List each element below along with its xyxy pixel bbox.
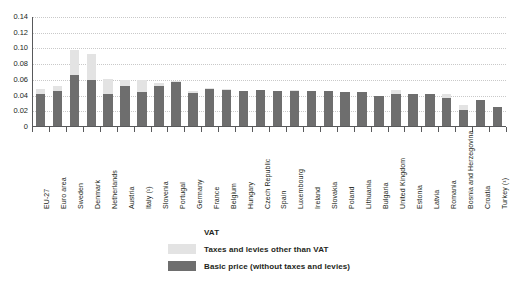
bar-belgium[interactable] (222, 89, 231, 127)
chart-container: 00.020.040.060.080.100.120.14 EU-27Euro … (0, 0, 519, 282)
x-axis-tick (134, 127, 135, 132)
bar-segment-basic-price (256, 90, 265, 127)
bar-spain[interactable] (273, 91, 282, 127)
y-axis-tick-labels: 00.020.040.060.080.100.120.14 (0, 0, 30, 132)
bar-denmark[interactable] (87, 54, 96, 127)
x-axis-tick (455, 127, 456, 132)
x-axis-tick (32, 127, 33, 132)
x-axis-tick-label: Slovenia (162, 181, 170, 209)
y-axis-tick-label: 0.02 (13, 107, 28, 115)
bar-segment-basic-price (53, 91, 62, 127)
chart-legend: VAT Taxes and levies other than VAT Basi… (168, 224, 488, 275)
x-axis-tick-label: Czech Republic (264, 159, 272, 209)
y-axis-tick-label: 0.06 (13, 76, 28, 84)
bar-germany[interactable] (188, 91, 197, 127)
bar-segment-other-taxes (87, 54, 96, 80)
bar-austria[interactable] (120, 80, 129, 127)
bar-sweden[interactable] (70, 50, 79, 127)
x-axis-tick-label: Turkey (¹) (501, 178, 509, 209)
x-axis-tick (66, 127, 67, 132)
x-axis-tick-label: Spain (280, 191, 288, 209)
x-axis-tick (388, 127, 389, 132)
bar-hungary[interactable] (239, 91, 248, 127)
bar-bosnia-and-herzegovina[interactable] (459, 105, 468, 127)
bar-segment-basic-price (391, 94, 400, 127)
bar-luxembourg[interactable] (290, 90, 299, 127)
bar-segment-basic-price (205, 89, 214, 128)
x-axis-tick (371, 127, 372, 132)
x-axis-tick (337, 127, 338, 132)
bar-slovenia[interactable] (154, 83, 163, 127)
x-axis-tick-label: Latvia (433, 190, 441, 209)
x-axis-tick (354, 127, 355, 132)
x-axis-tick (303, 127, 304, 132)
bar-segment-basic-price (290, 91, 299, 127)
bar-romania[interactable] (442, 94, 451, 127)
legend-label-other-taxes: Taxes and levies other than VAT (204, 245, 328, 254)
x-axis-tick-label: Romania (450, 180, 458, 209)
x-axis-tick-label: Austria (128, 187, 136, 210)
bar-segment-basic-price (425, 94, 434, 127)
x-axis-tick (184, 127, 185, 132)
bar-slovakia[interactable] (324, 91, 333, 127)
bar-segment-other-taxes (70, 50, 79, 75)
y-axis-tick-label: 0.12 (13, 29, 28, 37)
x-axis-tick (489, 127, 490, 132)
bar-segment-basic-price (222, 90, 231, 127)
bar-croatia[interactable] (476, 100, 485, 128)
x-axis-tick-label: Bosnia and Herzegovina (467, 131, 475, 209)
bar-segment-basic-price (459, 110, 468, 127)
y-axis-tick-label: 0.10 (13, 44, 28, 52)
bar-turkey[interactable] (493, 107, 502, 127)
bar-segment-basic-price (239, 91, 248, 127)
bar-eu-27[interactable] (36, 89, 45, 127)
bar-segment-other-taxes (103, 79, 112, 94)
bar-segment-basic-price (273, 91, 282, 127)
legend-swatch-basic-price (168, 261, 196, 271)
y-axis-line (32, 17, 33, 127)
x-axis-tick (117, 127, 118, 132)
bar-netherlands[interactable] (103, 79, 112, 127)
bar-estonia[interactable] (408, 94, 417, 127)
x-axis-tick (201, 127, 202, 132)
x-axis-tick (404, 127, 405, 132)
bar-bulgaria[interactable] (374, 96, 383, 127)
bar-italy[interactable] (137, 80, 146, 127)
y-axis-tick-label: 0 (24, 123, 28, 131)
bar-poland[interactable] (340, 92, 349, 127)
x-axis-tick-label: Germany (196, 180, 204, 210)
bar-ireland[interactable] (307, 91, 316, 127)
bar-segment-basic-price (408, 94, 417, 127)
bar-france[interactable] (205, 88, 214, 127)
bar-segment-basic-price (374, 96, 383, 127)
bar-segment-basic-price (171, 82, 180, 127)
y-axis-tick-label: 0.14 (13, 13, 28, 21)
x-axis-tick (167, 127, 168, 132)
bar-portugal[interactable] (171, 81, 180, 127)
x-axis-tick (218, 127, 219, 132)
y-axis-tick-label: 0.08 (13, 60, 28, 68)
bar-czech-republic[interactable] (256, 90, 265, 127)
bar-euro-area[interactable] (53, 86, 62, 127)
bar-latvia[interactable] (425, 94, 434, 127)
bar-segment-basic-price (188, 93, 197, 127)
x-axis-tick (49, 127, 50, 132)
bar-segment-basic-price (87, 80, 96, 127)
x-axis-tick-label: Ireland (314, 187, 322, 209)
bar-segment-basic-price (340, 92, 349, 127)
x-axis-tick (151, 127, 152, 132)
x-axis-tick-label: Lithuania (365, 180, 373, 209)
bar-lithuania[interactable] (357, 92, 366, 127)
bar-segment-basic-price (357, 92, 366, 127)
x-axis-tick-label: United Kingdom (399, 158, 407, 209)
x-axis-tick-label: Portugal (179, 182, 187, 209)
x-axis-tick-label: Sweden (77, 183, 85, 209)
bar-united-kingdom[interactable] (391, 90, 400, 127)
y-axis-tick-label: 0.04 (13, 92, 28, 100)
plot-area (32, 5, 506, 127)
x-axis-tick-label: Poland (348, 187, 356, 209)
x-axis-tick-label: Netherlands (111, 170, 119, 209)
bar-segment-basic-price (476, 100, 485, 128)
legend-label-vat: VAT (204, 228, 219, 237)
bar-segment-basic-price (120, 86, 129, 127)
